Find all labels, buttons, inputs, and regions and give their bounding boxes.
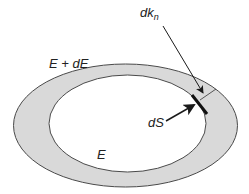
inner-surface-label: E xyxy=(97,148,106,161)
dk-label-main: dk xyxy=(140,5,154,20)
diagram-canvas xyxy=(0,0,249,194)
outer-surface-label: E + dE xyxy=(49,57,88,70)
dk-label-subscript: n xyxy=(154,12,159,22)
inner-energy-surface xyxy=(49,75,206,172)
dk-n-label: dkn xyxy=(140,6,159,22)
surface-element-label: dS xyxy=(148,116,164,129)
k-space-shell-diagram: dkn E + dE dS E xyxy=(0,0,249,194)
